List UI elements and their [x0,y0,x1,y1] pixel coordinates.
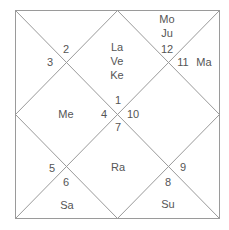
sign-number-2: 2 [63,43,69,55]
planet-saturn: Sa [60,199,73,211]
sign-number-6: 6 [63,176,69,188]
sign-number-12: 12 [161,43,173,55]
chart-frame [0,0,229,230]
planet-ketu: Ke [110,69,123,81]
planet-jupiter: Ju [161,27,173,39]
sign-number-1: 1 [115,94,121,106]
sign-number-7: 7 [115,121,121,133]
planet-rahu: Ra [111,161,125,173]
planet-sun: Su [161,198,174,210]
sign-number-3: 3 [47,56,53,68]
sign-number-9: 9 [180,161,186,173]
planet-mars: Ma [196,56,211,68]
sign-number-10: 10 [127,108,139,120]
planet-venus: Ve [111,55,124,67]
sign-number-8: 8 [165,176,171,188]
planet-mercury: Me [58,108,73,120]
planet-moon: Mo [159,13,174,25]
sign-number-5: 5 [49,162,55,174]
sign-number-11: 11 [177,56,188,68]
planet-lagna: La [111,41,123,53]
sign-number-4: 4 [101,108,107,120]
